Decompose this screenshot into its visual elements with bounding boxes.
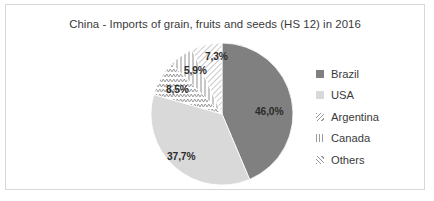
slice-label-argentina: 8,5% [166, 84, 189, 95]
pie-chart-plot-area: 46,0% 37,7% 8,5% 5,9% 7,3% Brazil USA Ar… [6, 5, 426, 191]
slice-label-others: 7,3% [205, 51, 228, 62]
legend-item-brazil[interactable]: Brazil [316, 63, 420, 85]
legend-label-canada: Canada [331, 132, 370, 144]
legend-item-others[interactable]: Others [316, 149, 420, 171]
slice-label-brazil: 46,0% [255, 106, 283, 117]
legend-swatch-argentina [316, 113, 324, 121]
legend-label-brazil: Brazil [331, 68, 359, 80]
legend-label-usa: USA [331, 89, 354, 101]
chart-legend: Brazil USA Argentina Canada Others [316, 63, 420, 171]
legend-item-argentina[interactable]: Argentina [316, 106, 420, 128]
legend-swatch-brazil [316, 70, 324, 78]
legend-label-argentina: Argentina [331, 111, 379, 123]
slice-label-canada: 5,9% [184, 65, 207, 76]
chart-frame: China - Imports of grain, fruits and see… [5, 4, 425, 190]
slice-label-usa: 37,7% [167, 151, 195, 162]
legend-swatch-others [316, 156, 324, 164]
legend-label-others: Others [331, 154, 365, 166]
legend-swatch-usa [316, 91, 324, 99]
legend-item-usa[interactable]: USA [316, 85, 420, 107]
legend-item-canada[interactable]: Canada [316, 128, 420, 150]
legend-swatch-canada [316, 134, 324, 142]
